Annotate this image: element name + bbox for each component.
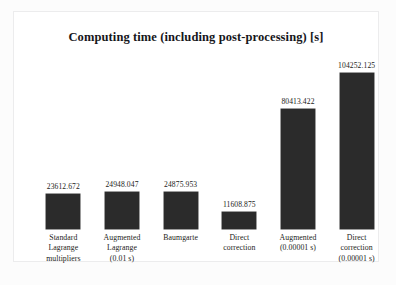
category-label-text: Augmented(0.00001 s) — [269, 233, 328, 254]
bar-value-label: 24875.953 — [164, 180, 197, 189]
bar-value-label: 23612.672 — [47, 182, 80, 191]
bar — [105, 192, 139, 229]
category-label-text: AugmentedLagrange(0.01 s) — [93, 233, 152, 264]
chart-frame: Computing time (including post-processin… — [13, 11, 379, 262]
bar — [222, 212, 256, 229]
category-tick-label: Augmented(0.00001 s) — [269, 233, 328, 254]
category-label-text: Directcorrection — [210, 233, 269, 254]
bar-group: 104252.125 — [327, 57, 386, 229]
bar-group: 24948.047 — [93, 57, 152, 229]
category-tick-label: AugmentedLagrange(0.01 s) — [93, 233, 152, 264]
category-tick-label: Directcorrection — [210, 233, 269, 254]
bar-value-label: 24948.047 — [105, 180, 138, 189]
bar — [340, 73, 374, 229]
bar-group: 24875.953 — [151, 57, 210, 229]
bar — [46, 194, 80, 229]
bar — [281, 109, 315, 229]
page-background: Computing time (including post-processin… — [0, 0, 396, 285]
bar-value-label: 80413.422 — [281, 97, 314, 106]
bar-value-label: 11608.875 — [223, 200, 256, 209]
category-tick-label: StandardLagrangemultipliers — [34, 233, 93, 264]
bar-group: 80413.422 — [269, 57, 328, 229]
bar — [164, 192, 198, 229]
category-tick-label: Directcorrection(0.00001 s) — [327, 233, 386, 264]
bar-value-label: 104252.125 — [338, 61, 375, 70]
bar-group: 11608.875 — [210, 57, 269, 229]
chart-title: Computing time (including post-processin… — [14, 30, 378, 45]
category-label-text: Baumgarte — [151, 233, 210, 243]
category-tick-label: Baumgarte — [151, 233, 210, 243]
plot-area: 23612.67224948.04724875.95311608.8758041… — [34, 57, 386, 229]
category-label-text: Directcorrection(0.00001 s) — [327, 233, 386, 264]
category-label-text: StandardLagrangemultipliers — [34, 233, 93, 264]
bar-group: 23612.672 — [34, 57, 93, 229]
category-axis: StandardLagrangemultipliersAugmentedLagr… — [34, 233, 386, 275]
